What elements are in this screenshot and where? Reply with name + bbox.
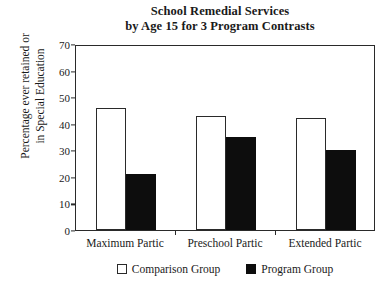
bar-comparison-3 — [296, 118, 326, 230]
bar-comparison-2 — [196, 116, 226, 230]
bar-program-1 — [126, 174, 156, 230]
plot-area — [75, 45, 375, 231]
bar-comparison-1 — [96, 108, 126, 230]
legend-swatch-comparison-group — [117, 264, 127, 274]
y-tick-label: 40 — [42, 119, 70, 130]
chart-title: School Remedial Services by Age 15 for 3… — [60, 4, 380, 34]
x-tick-mark — [275, 231, 276, 235]
chart-title-line-1: School Remedial Services — [151, 4, 290, 18]
legend-label-comparison-group: Comparison Group — [132, 263, 220, 275]
x-tick-mark — [175, 231, 176, 235]
x-axis-label-2: Preschool Partic — [175, 236, 275, 250]
chart-legend: Comparison Group Program Group — [75, 263, 375, 275]
x-axis-label-1: Maximum Partic — [75, 236, 175, 250]
y-tick-label: 70 — [42, 40, 70, 51]
y-tick-label: 30 — [42, 146, 70, 157]
chart-title-line-2: by Age 15 for 3 Program Contrasts — [60, 19, 380, 34]
legend-item-program-group: Program Group — [246, 263, 333, 275]
y-tick-label: 0 — [42, 226, 70, 237]
bar-chart-figure: School Remedial Services by Age 15 for 3… — [0, 0, 392, 297]
y-tick-label: 60 — [42, 66, 70, 77]
y-tick-label: 10 — [42, 199, 70, 210]
legend-swatch-program-group — [246, 264, 256, 274]
y-tick-label: 20 — [42, 172, 70, 183]
legend-item-comparison-group: Comparison Group — [117, 263, 220, 275]
x-axis-label-3: Extended Partic — [275, 236, 375, 250]
bar-program-3 — [326, 150, 356, 230]
y-tick-label: 50 — [42, 93, 70, 104]
legend-label-program-group: Program Group — [261, 263, 333, 275]
y-axis-title-line-1: Percentage ever retained or — [18, 33, 33, 158]
bar-program-2 — [226, 137, 256, 230]
